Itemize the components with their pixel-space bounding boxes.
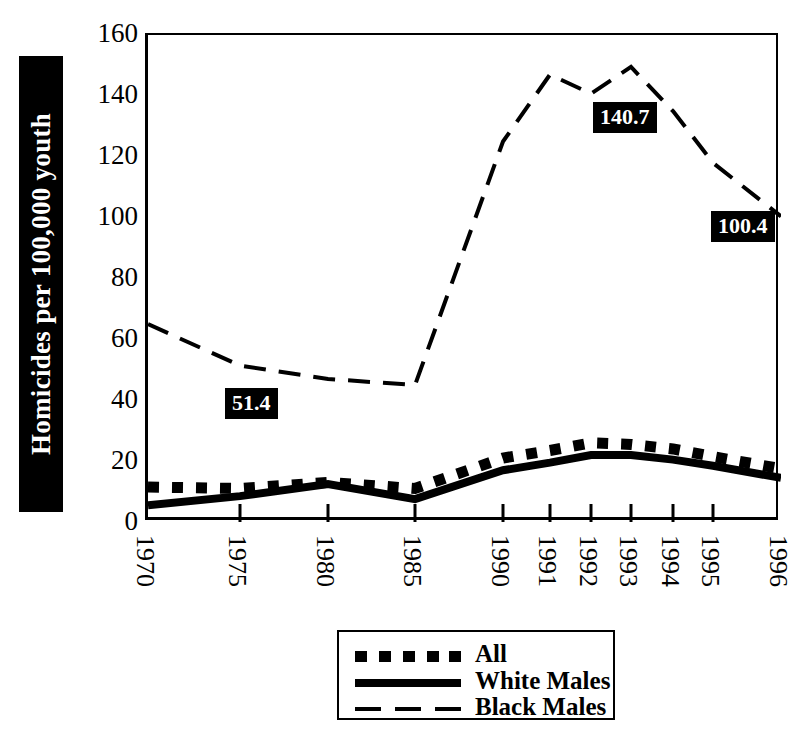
legend-label-white-males: White Males [475, 668, 610, 694]
x-tick-1992: 1992 [575, 535, 601, 615]
callout-51-4: 51.4 [225, 388, 278, 419]
legend-label-black-males: Black Males [475, 694, 606, 720]
thin-dashed-swatch [353, 696, 463, 722]
legend-row-all: All [353, 643, 603, 669]
callout-140-7: 140.7 [593, 102, 657, 133]
x-tick-1996: 1996 [765, 535, 791, 615]
legend-label-all: All [475, 641, 507, 667]
x-tick-1970: 1970 [132, 535, 158, 615]
x-tick-1995: 1995 [697, 535, 723, 615]
x-tick-1993: 1993 [615, 535, 641, 615]
chart-figure: Homicides per 100,000 youth 160 140 120 … [0, 0, 804, 745]
x-tick-1985: 1985 [399, 535, 425, 615]
legend-row-black-males: Black Males [353, 696, 603, 722]
x-tick-1990: 1990 [487, 535, 513, 615]
x-tick-1975: 1975 [224, 535, 250, 615]
thick-solid-swatch [353, 670, 463, 696]
callout-100-4: 100.4 [711, 211, 775, 242]
x-tick-1994: 1994 [657, 535, 683, 615]
thick-dotted-swatch [353, 643, 463, 669]
chart-legend: All White Males Black Males [337, 630, 615, 720]
x-tick-1980: 1980 [312, 535, 338, 615]
x-tick-1991: 1991 [534, 535, 560, 615]
